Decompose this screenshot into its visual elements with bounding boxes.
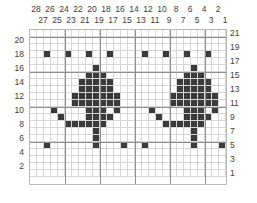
chart-cell bbox=[86, 142, 93, 149]
chart-cell bbox=[79, 37, 86, 44]
chart-cell bbox=[205, 114, 212, 121]
chart-cell bbox=[135, 100, 142, 107]
chart-cell bbox=[44, 58, 51, 65]
chart-cell bbox=[121, 135, 128, 142]
chart-cell bbox=[86, 44, 93, 51]
chart-cell bbox=[51, 107, 58, 114]
chart-cell bbox=[184, 114, 191, 121]
chart-cell bbox=[121, 51, 128, 58]
chart-cell bbox=[93, 79, 100, 86]
column-label-13: 13 bbox=[134, 15, 148, 26]
chart-cell bbox=[93, 114, 100, 121]
chart-cell bbox=[128, 128, 135, 135]
chart-cell bbox=[58, 79, 65, 86]
chart-cell bbox=[114, 135, 121, 142]
chart-cell bbox=[58, 100, 65, 107]
chart-cell bbox=[72, 170, 79, 177]
chart-cell bbox=[156, 65, 163, 72]
chart-cell bbox=[86, 128, 93, 135]
chart-cell bbox=[93, 86, 100, 93]
chart-cell bbox=[170, 51, 177, 58]
chart-cell bbox=[121, 163, 128, 170]
chart-cell bbox=[65, 142, 72, 149]
chart-cell bbox=[128, 121, 135, 128]
chart-cell bbox=[198, 121, 205, 128]
chart-cell bbox=[100, 72, 107, 79]
chart-cell bbox=[30, 170, 37, 177]
chart-cell bbox=[37, 142, 44, 149]
chart-cell bbox=[114, 156, 121, 163]
chart-cell bbox=[93, 149, 100, 156]
row-label-left-8: 8 bbox=[0, 120, 24, 128]
row-label-left-16: 16 bbox=[0, 64, 24, 72]
chart-cell bbox=[114, 128, 121, 135]
chart-cell bbox=[37, 37, 44, 44]
row-label-left-14: 14 bbox=[0, 78, 24, 86]
chart-cell bbox=[107, 37, 114, 44]
chart-cell bbox=[128, 142, 135, 149]
chart-cell bbox=[191, 156, 198, 163]
chart-cell bbox=[79, 114, 86, 121]
chart-cell bbox=[149, 44, 156, 51]
chart-cell bbox=[170, 121, 177, 128]
chart-cell bbox=[128, 93, 135, 100]
chart-cell bbox=[191, 79, 198, 86]
chart-cell bbox=[128, 107, 135, 114]
chart-cell bbox=[86, 135, 93, 142]
chart-cell bbox=[219, 30, 226, 37]
chart-cell bbox=[51, 65, 58, 72]
chart-cell bbox=[107, 114, 114, 121]
chart-cell bbox=[65, 100, 72, 107]
chart-cell bbox=[65, 121, 72, 128]
chart-cell bbox=[100, 65, 107, 72]
chart-cell bbox=[58, 163, 65, 170]
chart-cell bbox=[86, 65, 93, 72]
chart-cell bbox=[177, 163, 184, 170]
chart-cell bbox=[177, 51, 184, 58]
chart-cell bbox=[86, 170, 93, 177]
chart-cell bbox=[51, 114, 58, 121]
chart-cell bbox=[198, 44, 205, 51]
chart-cell bbox=[72, 128, 79, 135]
chart-cell bbox=[100, 86, 107, 93]
column-label-28: 28 bbox=[29, 4, 43, 15]
chart-cell bbox=[163, 128, 170, 135]
chart-cell bbox=[44, 128, 51, 135]
chart-cell bbox=[79, 121, 86, 128]
column-label-25: 25 bbox=[50, 15, 64, 26]
chart-cell bbox=[198, 135, 205, 142]
chart-cell bbox=[37, 156, 44, 163]
chart-cell bbox=[219, 142, 226, 149]
chart-cell bbox=[37, 163, 44, 170]
column-label-16: 16 bbox=[113, 4, 127, 15]
chart-cell bbox=[51, 142, 58, 149]
chart-cell bbox=[65, 128, 72, 135]
chart-cell bbox=[51, 51, 58, 58]
chart-cell bbox=[135, 37, 142, 44]
chart-cell bbox=[128, 100, 135, 107]
chart-cell bbox=[163, 149, 170, 156]
chart-cell bbox=[58, 121, 65, 128]
column-label-10: 10 bbox=[155, 4, 169, 15]
chart-cell bbox=[114, 72, 121, 79]
chart-cell bbox=[121, 37, 128, 44]
chart-cell bbox=[149, 65, 156, 72]
chart-cell bbox=[72, 65, 79, 72]
chart-cell bbox=[65, 37, 72, 44]
row-label-right-17: 17 bbox=[230, 57, 254, 65]
chart-cell bbox=[114, 86, 121, 93]
chart-cell bbox=[170, 79, 177, 86]
chart-cell bbox=[219, 156, 226, 163]
chart-cell bbox=[72, 58, 79, 65]
chart-cell bbox=[198, 170, 205, 177]
chart-cell bbox=[156, 128, 163, 135]
chart-cell bbox=[37, 135, 44, 142]
row-label-right-9: 9 bbox=[230, 113, 254, 121]
chart-cell bbox=[191, 170, 198, 177]
chart-cell bbox=[51, 100, 58, 107]
chart-cell bbox=[30, 156, 37, 163]
chart-cell bbox=[142, 149, 149, 156]
chart-cell bbox=[135, 128, 142, 135]
chart-cell bbox=[212, 58, 219, 65]
chart-cell bbox=[79, 100, 86, 107]
